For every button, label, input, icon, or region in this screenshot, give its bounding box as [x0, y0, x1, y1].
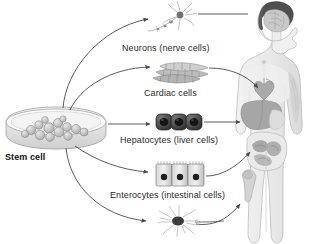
arrow-to-neurons — [63, 19, 148, 108]
neurons-label: Neurons (nerve cells) — [122, 43, 210, 53]
cardiac-cells-label: Cardiac cells — [144, 88, 197, 98]
diagram-canvas — [0, 0, 331, 244]
stem-cell-differentiation-figure: Stem cell Neurons (nerve cells) Cardiac … — [0, 0, 331, 244]
stem-cell-label: Stem cell — [5, 152, 45, 162]
enterocyte-columnar-cell-icon — [156, 161, 204, 186]
hepatocyte-cell-icon — [156, 114, 202, 130]
intestines-organ — [247, 132, 287, 171]
hepatocytes-label: Hepatocytes (liver cells) — [120, 135, 218, 145]
petri-dish-icon — [6, 107, 106, 149]
human-body-figure-icon — [236, 2, 303, 243]
cardiac-muscle-fiber-icon — [153, 63, 208, 83]
enterocytes-label: Enterocytes (intestinal cells) — [110, 190, 225, 200]
neuron-cell-icon — [148, 1, 197, 32]
arrow-to-stellate — [66, 148, 146, 221]
arrow-to-enterocytes — [75, 146, 148, 172]
connector-stellate-to-bone — [196, 204, 240, 224]
stellate-cell-icon — [158, 205, 224, 237]
arrow-to-cardiac — [70, 67, 150, 110]
